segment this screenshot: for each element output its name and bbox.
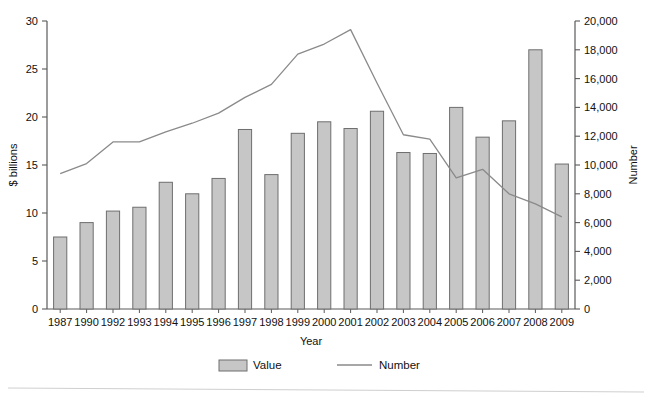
- chart-figure: 05101520253002,0004,0006,0008,00010,0001…: [0, 0, 652, 398]
- x-tick-label: 1996: [206, 316, 230, 328]
- right-tick-label: 8,000: [584, 188, 612, 200]
- x-tick-label: 2003: [391, 316, 415, 328]
- x-tick-label: 2007: [497, 316, 521, 328]
- right-tick-label: 10,000: [584, 159, 618, 171]
- legend-swatch-value: [219, 360, 247, 371]
- bar: [476, 137, 489, 309]
- left-tick-label: 5: [32, 255, 38, 267]
- left-axis-title: $ billions: [7, 143, 19, 186]
- x-tick-label: 1997: [233, 316, 257, 328]
- bar: [502, 121, 515, 309]
- bar: [80, 223, 93, 309]
- x-tick-label: 2006: [470, 316, 494, 328]
- bar: [423, 153, 436, 309]
- bar: [555, 164, 568, 309]
- x-tick-label: 1992: [101, 316, 125, 328]
- bar: [529, 50, 542, 309]
- right-tick-label: 6,000: [584, 217, 612, 229]
- x-tick-label: 2004: [418, 316, 442, 328]
- bar: [344, 129, 357, 309]
- right-tick-label: 14,000: [584, 101, 618, 113]
- bar: [159, 182, 172, 309]
- bar: [265, 175, 278, 309]
- x-axis-title: Year: [300, 335, 323, 347]
- bar: [370, 111, 383, 309]
- bar: [212, 178, 225, 309]
- bar-series: [54, 50, 569, 309]
- chart-legend: ValueNumber: [219, 359, 420, 371]
- bottom-rule: [8, 388, 644, 392]
- x-tick-label: 1995: [180, 316, 204, 328]
- left-tick-label: 0: [32, 303, 38, 315]
- x-tick-label: 2008: [523, 316, 547, 328]
- x-tick-label: 1987: [48, 316, 72, 328]
- x-tick-label: 2001: [338, 316, 362, 328]
- bar: [106, 211, 119, 309]
- x-tick-label: 1998: [259, 316, 283, 328]
- bar: [318, 122, 331, 309]
- left-tick-label: 20: [26, 111, 38, 123]
- right-tick-label: 12,000: [584, 130, 618, 142]
- left-tick-label: 15: [26, 159, 38, 171]
- x-tick-label: 1999: [286, 316, 310, 328]
- bar: [397, 153, 410, 309]
- right-tick-label: 4,000: [584, 245, 612, 257]
- right-tick-label: 2,000: [584, 274, 612, 286]
- x-tick-label: 2009: [550, 316, 574, 328]
- right-tick-label: 16,000: [584, 73, 618, 85]
- dual-axis-bar-line-chart: 05101520253002,0004,0006,0008,00010,0001…: [0, 0, 652, 398]
- x-tick-label: 2005: [444, 316, 468, 328]
- x-tick-label: 1993: [127, 316, 151, 328]
- bar: [133, 207, 146, 309]
- left-axis-ticks: 051015202530: [26, 15, 47, 315]
- x-tick-label: 2000: [312, 316, 336, 328]
- right-axis-ticks: 02,0004,0006,0008,00010,00012,00014,0001…: [575, 15, 618, 315]
- legend-label-number: Number: [379, 359, 420, 371]
- bar: [450, 107, 463, 309]
- bar: [186, 194, 199, 309]
- left-tick-label: 30: [26, 15, 38, 27]
- x-tick-label: 1990: [74, 316, 98, 328]
- legend-label-value: Value: [253, 359, 282, 371]
- bar: [291, 133, 304, 309]
- bar: [54, 237, 67, 309]
- x-tick-label: 2002: [365, 316, 389, 328]
- x-axis-ticks: 1987199019921993199419951996199719981999…: [48, 309, 574, 328]
- right-tick-label: 18,000: [584, 44, 618, 56]
- right-axis-title: Number: [627, 145, 639, 184]
- right-tick-label: 0: [584, 303, 590, 315]
- bar: [238, 129, 251, 309]
- right-tick-label: 20,000: [584, 15, 618, 27]
- x-tick-label: 1994: [154, 316, 178, 328]
- left-tick-label: 10: [26, 207, 38, 219]
- left-tick-label: 25: [26, 63, 38, 75]
